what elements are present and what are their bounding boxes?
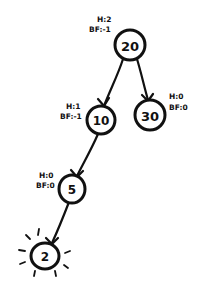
tree-node-20: 20 H:2 BF:-1 [89, 15, 145, 60]
node-value: 2 [41, 250, 49, 264]
node-value: 5 [68, 183, 76, 197]
edge-10-5 [71, 134, 98, 177]
tree-diagram: 20 H:2 BF:-1 10 H:1 BF:-1 30 H:0 BF:0 5 … [0, 0, 203, 300]
node-bf-label: BF:0 [169, 103, 188, 112]
edge-20-30 [137, 59, 153, 101]
edge-20-10 [98, 59, 123, 106]
node-height-label: H:0 [39, 171, 54, 180]
node-height-label: H:2 [97, 15, 112, 24]
tree-node-10: 10 H:1 BF:-1 [60, 102, 115, 134]
node-height-label: H:0 [169, 92, 184, 101]
node-value: 10 [93, 114, 110, 128]
node-height-label: H:1 [66, 102, 81, 111]
node-bf-label: BF:-1 [60, 112, 82, 121]
tree-node-2: 2 [19, 229, 70, 276]
node-bf-label: BF:0 [36, 181, 55, 190]
edge-5-2 [46, 202, 69, 244]
node-value: 30 [141, 109, 159, 124]
node-bf-label: BF:-1 [89, 25, 111, 34]
node-value: 20 [121, 39, 139, 54]
tree-node-30: 30 H:0 BF:0 [135, 92, 188, 130]
tree-node-5: 5 H:0 BF:0 [36, 171, 85, 203]
